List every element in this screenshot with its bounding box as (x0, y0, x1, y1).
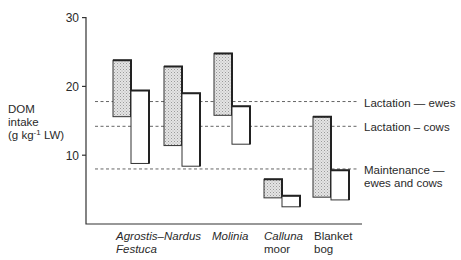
y-ticks: 102030 (66, 11, 86, 163)
bar (313, 117, 331, 197)
y-label-line-1: DOM (8, 103, 35, 115)
y-label-line-2: intake (8, 116, 39, 128)
dom-intake-chart: DOM intake (g kg-1 LW) 102030 Lactation … (0, 0, 461, 260)
category-label: moor (264, 243, 290, 255)
reference-line-label: Lactation – cows (364, 121, 450, 133)
category-label: Agrostis– (115, 230, 165, 242)
bar (214, 53, 232, 115)
bar (264, 179, 282, 198)
y-tick-label: 20 (66, 80, 80, 94)
y-tick-label: 30 (66, 11, 80, 25)
y-tick-label: 10 (66, 149, 80, 163)
reference-line-label: Lactation — ewes (364, 97, 456, 109)
category-label: Festuca (116, 243, 157, 255)
bar (331, 170, 349, 200)
y-label-line-3: (g kg-1 LW) (8, 128, 64, 141)
reference-line-label: Maintenance — (364, 164, 445, 176)
category-label: Blanket (314, 230, 353, 242)
bar (164, 66, 182, 145)
bar (131, 91, 149, 164)
category-label: bog (314, 243, 333, 255)
bar (232, 106, 250, 144)
category-labels: Agrostis–FestucaNardusMoliniaCallunamoor… (115, 230, 353, 255)
bar (113, 60, 131, 116)
y-axis-label: DOM intake (g kg-1 LW) (8, 103, 64, 141)
bar (182, 93, 200, 166)
bars (113, 53, 349, 206)
category-label: Molinia (212, 230, 248, 242)
bar (282, 196, 300, 207)
reference-line-label: ewes and cows (364, 177, 443, 189)
category-label: Calluna (264, 230, 303, 242)
category-label: Nardus (164, 230, 201, 242)
